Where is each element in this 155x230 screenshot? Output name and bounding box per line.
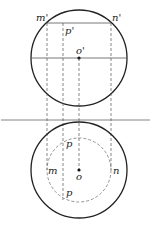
label-o-prime: o'	[76, 45, 85, 56]
label-m: m	[48, 165, 57, 176]
label-m-prime: m'	[36, 12, 48, 23]
label-p-prime: p'	[65, 25, 74, 36]
label-n: n	[113, 165, 119, 176]
projection-diagram: m' n' p' o' p m n o p	[0, 0, 155, 230]
label-p-upper: p	[66, 138, 73, 149]
label-o: o	[76, 171, 82, 182]
label-p-lower: p	[66, 187, 73, 198]
label-n-prime: n'	[112, 12, 121, 23]
